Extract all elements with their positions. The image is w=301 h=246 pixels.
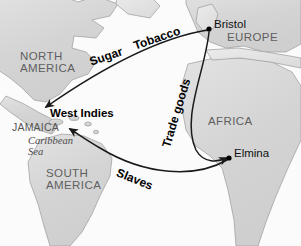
bristol-dot [206,26,211,31]
map-canvas [0,0,301,246]
elmina-dot [226,155,231,160]
trade-route-map: NORTH AMERICA SOUTH AMERICA EUROPE AFRIC… [0,0,301,246]
